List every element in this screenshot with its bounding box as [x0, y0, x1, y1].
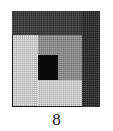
- region-mid-black: [38, 55, 58, 80]
- figure-root: 8: [0, 0, 113, 131]
- region-mid-upper: [38, 35, 58, 55]
- figure-caption-text: 8: [52, 111, 61, 128]
- figure-caption: 8: [0, 107, 113, 131]
- region-right-inner-upper: [58, 35, 82, 80]
- region-mid-lower: [38, 80, 82, 106]
- mosaic-square: [12, 11, 100, 107]
- region-top-band: [12, 11, 82, 35]
- region-right-column: [82, 11, 100, 107]
- region-left-column: [13, 35, 38, 106]
